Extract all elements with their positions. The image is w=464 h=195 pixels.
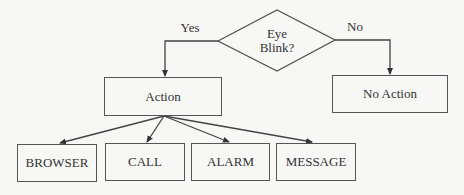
decision-label: Eye Blink? <box>260 27 295 55</box>
no-action-node: No Action <box>332 75 448 113</box>
edge-action-alarm <box>164 116 229 142</box>
message-node: MESSAGE <box>276 143 356 181</box>
yes-label: Yes <box>181 21 200 35</box>
decision-label-line1: Eye <box>260 27 295 41</box>
alarm-node-label: ALARM <box>207 154 254 170</box>
edge-yes <box>165 41 218 76</box>
message-node-label: MESSAGE <box>286 154 347 170</box>
action-node-label: Action <box>145 89 180 105</box>
edge-action-message <box>164 116 312 142</box>
decision-label-line2: Blink? <box>260 41 295 55</box>
browser-node-label: BROWSER <box>26 155 89 171</box>
action-node: Action <box>104 77 222 116</box>
no-action-node-label: No Action <box>363 86 417 102</box>
alarm-node: ALARM <box>191 143 270 181</box>
call-node-label: CALL <box>128 154 162 170</box>
edge-no <box>335 40 390 74</box>
no-label: No <box>347 20 363 34</box>
call-node: CALL <box>105 143 185 181</box>
browser-node: BROWSER <box>17 144 97 182</box>
